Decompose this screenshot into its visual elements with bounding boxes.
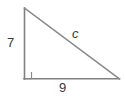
right-triangle-figure: 7 9 c bbox=[0, 0, 125, 100]
vertical-leg-label: 7 bbox=[7, 36, 14, 49]
hypotenuse-label: c bbox=[72, 27, 79, 40]
hypotenuse-line bbox=[25, 8, 120, 79]
horizontal-leg-label: 9 bbox=[59, 81, 66, 94]
right-angle-marker-icon bbox=[25, 72, 32, 79]
